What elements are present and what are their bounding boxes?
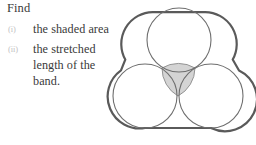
list-item-marker: (i) [7,21,33,37]
shaded-curvilinear-triangle [162,63,195,96]
list-item-marker: (ii) [7,41,33,57]
worksheet-page: Find (i) the shaded area (ii) the stretc… [0,0,256,145]
bottom-right-circle [179,64,243,128]
bottom-left-circle [113,64,177,128]
top-circle [147,8,211,72]
figure-three-circles-band [104,0,256,145]
three-circles-band-svg [104,0,256,145]
